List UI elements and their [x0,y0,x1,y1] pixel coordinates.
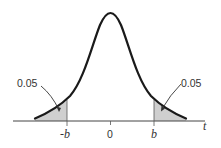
t-distribution-diagram: 0.05 0.05 -b 0 b t [0,0,221,148]
left-tail-label: 0.05 [17,77,38,89]
tick-label-b: b [151,127,157,141]
tick-label-zero: 0 [107,128,113,140]
right-arrow-icon [162,84,181,109]
right-tail-label: 0.05 [181,77,202,89]
bell-curve [35,13,186,119]
tick-label-neg-b: -b [60,127,70,141]
axis-label-t: t [203,119,207,133]
